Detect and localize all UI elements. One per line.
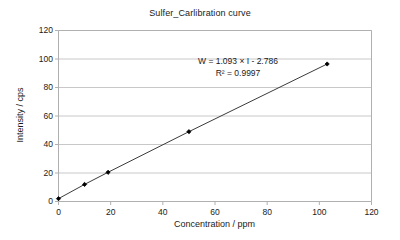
trendline-annotation: W = 1.093 × I - 2.786 R² = 0.9997 [168,56,308,79]
data-point-marker [187,130,191,134]
x-tick-label: 100 [304,208,334,217]
trendline-r-squared: R² = 0.9997 [168,68,308,80]
y-tick-label: 80 [27,83,53,92]
x-tick-label: 80 [252,208,282,217]
data-point-marker [82,182,86,186]
plot-canvas [0,0,400,240]
y-axis-tick-marks [55,31,59,202]
y-axis-title: Intensity / cps [15,75,25,155]
y-tick-label: 20 [27,169,53,178]
trendline-equation: W = 1.093 × I - 2.786 [168,56,308,68]
y-axis-title-wrap: Intensity / cps [13,77,27,157]
y-tick-label: 120 [27,26,53,35]
x-tick-label: 60 [200,208,230,217]
x-tick-label: 20 [96,208,126,217]
x-tick-label: 120 [357,208,387,217]
data-point-marker [56,197,60,201]
y-tick-label: 40 [27,140,53,149]
y-tick-label: 100 [27,55,53,64]
data-point-marker [106,170,110,174]
chart-image: Sulfer_Carlibration curve 02040608010012… [0,0,400,240]
data-point-marker [325,62,329,66]
x-axis-title: Concentration / ppm [58,219,371,229]
x-tick-label: 40 [148,208,178,217]
x-tick-label: 0 [44,208,74,217]
gridlines [59,31,372,174]
y-tick-label: 0 [27,197,53,206]
series-polyline [59,64,328,199]
series-line [59,64,328,199]
y-tick-label: 60 [27,112,53,121]
x-axis-tick-marks [59,202,372,206]
